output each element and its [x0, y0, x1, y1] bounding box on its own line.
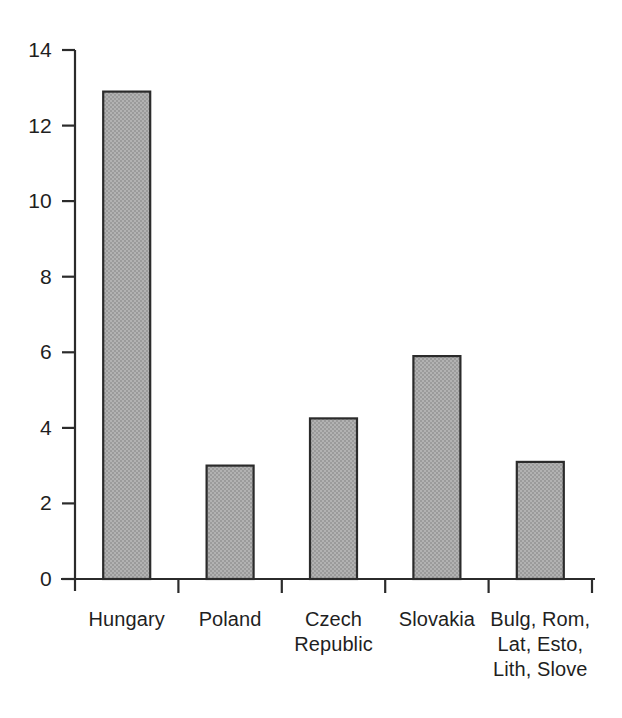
- y-axis-tick-label: 4: [12, 417, 52, 438]
- y-axis-tick-label: 8: [12, 266, 52, 287]
- bar: [310, 418, 357, 579]
- bar: [207, 466, 254, 579]
- bar: [413, 356, 460, 579]
- bar: [103, 92, 150, 579]
- x-axis-category-label: Bulg, Rom, Lat, Esto, Lith, Slove: [470, 607, 610, 682]
- y-axis-tick-label: 2: [12, 492, 52, 513]
- y-axis-tick-label: 10: [12, 190, 52, 211]
- bar-chart-figure: 02468101214 HungaryPolandCzech RepublicS…: [0, 0, 622, 718]
- y-axis-tick-label: 12: [12, 115, 52, 136]
- y-axis-tick-label: 6: [12, 341, 52, 362]
- y-axis-tick-label: 14: [12, 39, 52, 60]
- bars-group: [103, 92, 564, 579]
- bar: [517, 462, 564, 579]
- y-axis-tick-label: 0: [12, 568, 52, 589]
